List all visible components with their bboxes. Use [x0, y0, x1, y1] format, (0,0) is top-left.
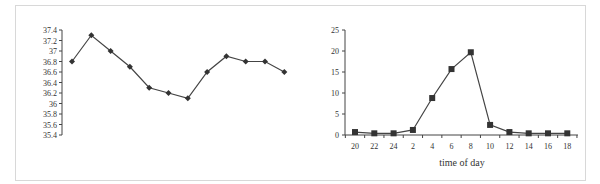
data-point-marker — [429, 95, 435, 101]
x-tick-label: 24 — [390, 142, 398, 151]
data-point-marker — [564, 130, 570, 136]
data-point-marker — [352, 129, 358, 135]
data-point-marker — [506, 129, 512, 135]
data-point-marker — [371, 130, 377, 136]
x-tick-label: 14 — [525, 142, 533, 151]
x-tick-label: 18 — [563, 142, 571, 151]
x-tick-label: 8 — [469, 142, 473, 151]
y-tick-label: 25 — [331, 26, 339, 35]
data-point-marker — [487, 122, 493, 128]
time-of-day-line-chart: 252015105020222424681012141618time of da… — [0, 0, 600, 184]
data-point-marker — [545, 130, 551, 136]
data-point-marker — [391, 130, 397, 136]
x-tick-label: 6 — [450, 142, 454, 151]
data-point-marker — [526, 130, 532, 136]
x-tick-label: 20 — [351, 142, 359, 151]
x-tick-label: 22 — [370, 142, 378, 151]
x-tick-label: 10 — [486, 142, 494, 151]
y-tick-label: 20 — [331, 47, 339, 56]
x-tick-label: 2 — [411, 142, 415, 151]
x-tick-label: 4 — [430, 142, 434, 151]
data-point-marker — [449, 66, 455, 72]
data-point-marker — [410, 127, 416, 133]
x-axis-title: time of day — [439, 157, 485, 168]
x-tick-label: 12 — [505, 142, 513, 151]
y-tick-label: 15 — [331, 68, 339, 77]
data-point-marker — [468, 49, 474, 55]
x-tick-label: 16 — [544, 142, 552, 151]
y-tick-label: 10 — [331, 89, 339, 98]
y-tick-label: 0 — [335, 131, 339, 140]
series-line — [355, 52, 567, 133]
y-tick-label: 5 — [335, 110, 339, 119]
